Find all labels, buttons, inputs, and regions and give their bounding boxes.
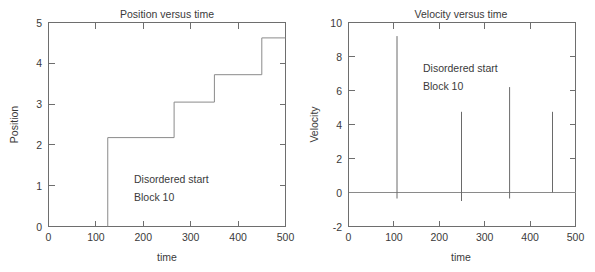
x-axis-label: time <box>451 251 471 263</box>
velocity-impulse-series <box>397 36 553 201</box>
position-plot-svg: Position versus time <box>0 0 300 272</box>
y-tick-label: 10 <box>330 17 342 29</box>
annotation-line-1: Disordered start <box>423 62 498 74</box>
y-axis-label: Position <box>8 106 20 144</box>
y-axis-label: Velocity <box>308 106 320 143</box>
x-tick-label: 300 <box>182 231 200 243</box>
velocity-plot-svg: Velocity versus time <box>300 0 595 272</box>
y-axis-tick-labels: -2 0 2 4 6 8 10 <box>330 17 342 233</box>
x-tick-label: 400 <box>229 231 247 243</box>
figure: Position versus time <box>0 0 595 272</box>
y-tick-label: 4 <box>36 57 42 69</box>
x-axis-tick-labels: 0 100 200 300 400 500 <box>346 231 585 243</box>
chart-position-versus-time: Position versus time <box>0 0 300 272</box>
y-tick-label: 6 <box>336 85 342 97</box>
x-tick-label: 100 <box>385 231 403 243</box>
x-tick-label: 500 <box>277 231 295 243</box>
x-tick-label: 400 <box>521 231 539 243</box>
chart-title: Position versus time <box>120 8 214 20</box>
y-tick-label: -2 <box>333 221 342 233</box>
x-tick-label: 100 <box>87 231 105 243</box>
annotation-line-2: Block 10 <box>134 191 174 203</box>
x-axis-label: time <box>157 251 177 263</box>
y-tick-label: 5 <box>36 17 42 29</box>
chart-velocity-versus-time: Velocity versus time <box>300 0 595 272</box>
x-tick-label: 300 <box>476 231 494 243</box>
y-tick-label: 0 <box>336 187 342 199</box>
annotation-line-2: Block 10 <box>423 80 463 92</box>
x-tick-label: 0 <box>346 231 352 243</box>
y-tick-label: 2 <box>36 139 42 151</box>
x-tick-label: 500 <box>567 231 585 243</box>
x-tick-label: 200 <box>431 231 449 243</box>
y-tick-label: 2 <box>336 153 342 165</box>
y-tick-label: 0 <box>36 221 42 233</box>
y-tick-label: 1 <box>36 180 42 192</box>
y-tick-label: 3 <box>36 98 42 110</box>
y-axis-tick-labels: 0 1 2 3 4 5 <box>36 17 42 233</box>
x-axis-tick-labels: 0 100 200 300 400 500 <box>46 231 295 243</box>
annotation-line-1: Disordered start <box>134 173 209 185</box>
x-tick-label: 200 <box>135 231 153 243</box>
y-tick-label: 8 <box>336 51 342 63</box>
y-tick-label: 4 <box>336 119 342 131</box>
x-tick-label: 0 <box>46 231 52 243</box>
chart-title: Velocity versus time <box>415 8 508 20</box>
